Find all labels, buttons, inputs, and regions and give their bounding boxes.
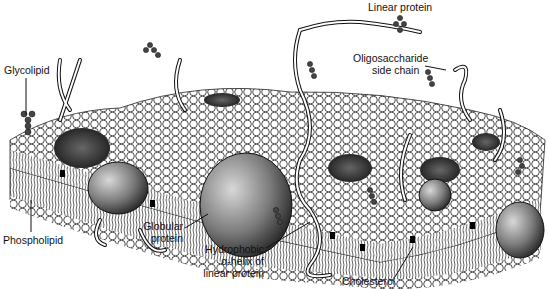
label-hydrophobic-2: α-helix of <box>186 255 264 267</box>
label-globular-1: Globular <box>133 220 183 232</box>
label-cholesterol: Cholesterol <box>342 275 395 287</box>
label-hydrophobic-1: Hydrophobic <box>186 243 264 255</box>
label-oligosaccharide-1: Oligosaccharide <box>353 52 428 64</box>
label-glycolipid: Glycolipid <box>4 64 50 76</box>
label-oligosaccharide-2: side chain <box>372 64 419 76</box>
label-phospholipid: Phospholipid <box>3 234 63 246</box>
label-linear-protein: Linear protein <box>368 1 432 13</box>
label-hydrophobic-3: linear protein <box>186 267 264 279</box>
label-globular-2: protein <box>133 232 183 244</box>
membrane-diagram: Linear protein Glycolipid Oligosaccharid… <box>0 0 549 289</box>
membrane-illustration <box>0 0 549 289</box>
